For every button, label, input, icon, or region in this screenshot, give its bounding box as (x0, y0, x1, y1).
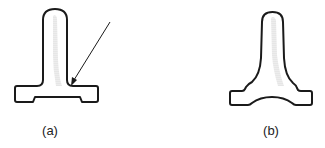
panel-a-part (15, 9, 98, 102)
arrow-head-icon (71, 77, 77, 86)
arrow-shaft (74, 22, 110, 80)
panel-a-arrow (71, 22, 110, 86)
panel-b-part (230, 12, 312, 105)
panel-b-label: (b) (263, 124, 279, 137)
panel-a-shading (53, 15, 62, 86)
panel-b-outline (230, 12, 312, 105)
panel-a-label: (a) (42, 124, 58, 137)
panel-b-shading (271, 17, 284, 86)
